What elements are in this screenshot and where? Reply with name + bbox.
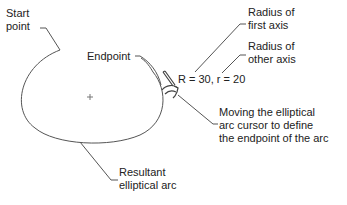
radius-first-line2: first axis	[248, 19, 294, 32]
radius-first-line1: Radius of	[248, 6, 294, 19]
radius-other-leader	[222, 55, 246, 73]
radius-other-axis-label: Radius of other axis	[248, 40, 296, 66]
endpoint-leader	[135, 56, 161, 85]
resultant-arc-label: Resultant elliptical arc	[119, 166, 176, 192]
moving-cursor-line1: Moving the elliptical	[219, 106, 328, 119]
elliptical-arc-cursor-icon	[162, 71, 178, 98]
start-point-label-line1: Start	[6, 7, 30, 20]
radius-other-line1: Radius of	[248, 40, 296, 53]
start-point-label: Start point	[6, 7, 30, 33]
start-point-leader	[40, 28, 60, 50]
endpoint-label: Endpoint	[87, 50, 130, 63]
resultant-line1: Resultant	[119, 166, 176, 179]
start-point-label-line2: point	[6, 20, 30, 33]
moving-cursor-label: Moving the elliptical arc cursor to defi…	[219, 106, 328, 145]
moving-cursor-leader	[178, 95, 218, 124]
moving-cursor-line3: the endpoint of the arc	[219, 132, 328, 145]
radius-other-line2: other axis	[248, 53, 296, 66]
moving-cursor-line2: arc cursor to define	[219, 119, 328, 132]
center-cross-icon	[87, 94, 93, 100]
resultant-line2: elliptical arc	[119, 179, 176, 192]
radii-value-label: R = 30, r = 20	[178, 73, 245, 86]
radius-first-leader	[195, 24, 246, 72]
resultant-leader	[80, 142, 118, 180]
radius-first-axis-label: Radius of first axis	[248, 6, 294, 32]
